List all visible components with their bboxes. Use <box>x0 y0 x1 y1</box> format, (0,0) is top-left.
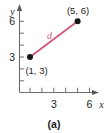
coordinate-plane-plot: 6 3 3 6 y x (5, 6) (1, 3) d (a) <box>0 0 108 133</box>
distance-annotation-label: d <box>47 30 53 41</box>
point-label-1-3: (1, 3) <box>25 65 47 76</box>
x-axis-arrow-icon <box>92 90 99 95</box>
distance-segment <box>30 21 78 57</box>
x-axis-label: x <box>98 99 104 110</box>
x-axis-ticks <box>30 88 90 93</box>
y-axis-arrow-icon <box>17 4 22 11</box>
x-tick-label-3: 3 <box>51 98 57 110</box>
point-marker-1-3 <box>27 54 33 60</box>
y-axis-ticks <box>20 21 25 81</box>
point-marker-5-6 <box>75 18 81 24</box>
figure-caption: (a) <box>48 118 61 130</box>
y-axis-label: y <box>9 6 15 17</box>
y-tick-label-6: 6 <box>9 15 15 27</box>
x-tick-label-6: 6 <box>87 98 93 110</box>
y-tick-label-3: 3 <box>9 51 15 63</box>
figure-container: 6 3 3 6 y x (5, 6) (1, 3) d (a) <box>0 0 108 133</box>
point-label-5-6: (5, 6) <box>67 5 89 16</box>
